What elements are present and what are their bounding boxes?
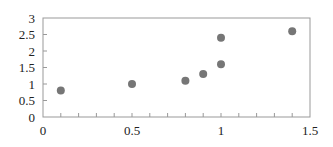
y-tick-label: 3 (29, 11, 36, 26)
x-tick-label: 0.5 (124, 123, 140, 138)
data-point (57, 87, 65, 95)
data-points (57, 27, 296, 94)
y-tick-label: 1 (29, 77, 36, 92)
data-point (128, 80, 136, 88)
y-axis-ticks (43, 35, 47, 101)
plot-area (43, 18, 310, 117)
x-tick-label: 0 (40, 123, 47, 138)
x-axis-tick-labels: 00.511.5 (40, 123, 318, 138)
data-point (217, 60, 225, 68)
data-point (288, 27, 296, 35)
data-point (217, 34, 225, 42)
x-axis-ticks (61, 113, 292, 117)
y-tick-label: 2 (29, 44, 36, 59)
y-tick-label: 0.5 (19, 93, 35, 108)
x-tick-label: 1.5 (302, 123, 318, 138)
data-point (181, 77, 189, 85)
data-point (199, 70, 207, 78)
y-axis-tick-labels: 00.511.522.53 (19, 11, 35, 125)
scatter-chart: 00.511.5 00.511.522.53 (0, 0, 333, 147)
y-tick-label: 0 (29, 110, 36, 125)
x-tick-label: 1 (218, 123, 225, 138)
y-tick-label: 1.5 (19, 60, 35, 75)
y-tick-label: 2.5 (19, 27, 35, 42)
